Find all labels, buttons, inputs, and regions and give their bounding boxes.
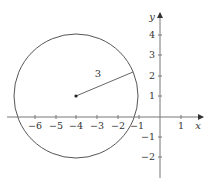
x-tick-labels: −6 −5 −4 −3 −2 −1 1: [28, 120, 184, 131]
y-tick-label: 4: [149, 29, 155, 40]
y-tick-label: 1: [149, 90, 155, 101]
center-point: [74, 94, 77, 97]
x-axis-label: x: [195, 120, 201, 131]
radius-label: 3: [95, 68, 101, 79]
x-tick-label: −6: [28, 120, 42, 131]
circle-diagram: −6 −5 −4 −3 −2 −1 1 x 4 3 2 1 −1 −2 y: [0, 0, 214, 185]
y-tick-label: 3: [149, 49, 155, 60]
x-tick-label: −2: [111, 120, 125, 131]
y-tick-label: 2: [149, 70, 155, 81]
x-tick-label: −4: [69, 120, 83, 131]
y-tick-label: −1: [141, 131, 155, 142]
x-tick-label: 1: [178, 120, 184, 131]
diagram-canvas: −6 −5 −4 −3 −2 −1 1 x 4 3 2 1 −1 −2 y: [0, 0, 214, 185]
x-tick-label: −1: [130, 120, 144, 131]
y-axis-label: y: [148, 11, 155, 22]
radius-line: [76, 72, 133, 96]
y-tick-labels: 4 3 2 1 −1 −2: [141, 29, 155, 162]
x-tick-label: −5: [49, 120, 63, 131]
x-tick-label: −3: [90, 120, 104, 131]
y-tick-label: −2: [141, 151, 155, 162]
